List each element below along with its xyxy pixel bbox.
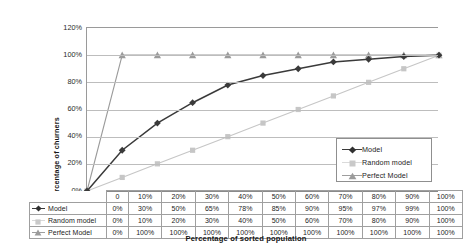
series-name: Random model (48, 216, 96, 226)
table-cell: 40% (229, 215, 262, 227)
series-marker-icon (32, 204, 45, 213)
x-axis-title: Percentage of sorted population (29, 234, 463, 243)
y-axis-tick-label: 60% (42, 104, 82, 113)
table-header-cell: 40% (229, 191, 262, 203)
table-header-cell: 50% (262, 191, 295, 203)
table-header-cell: 0 (107, 191, 129, 203)
y-axis-tick-label: 80% (42, 77, 82, 86)
gridline (87, 110, 438, 111)
diamond-data-point (330, 59, 337, 66)
y-axis-tick-label: 100% (42, 50, 82, 59)
table-header-cell: 90% (396, 191, 429, 203)
legend-label-perfect-model: Perfect Model (362, 171, 408, 180)
square-data-point (331, 93, 336, 98)
series-marker-icon (32, 216, 45, 225)
diamond-data-point (260, 72, 267, 79)
square-data-point (401, 66, 406, 71)
series-name: Model (48, 204, 67, 214)
diamond-data-point (189, 99, 196, 106)
table-cell: 78% (229, 203, 262, 215)
table-cell: 30% (128, 203, 161, 215)
table-header-cell: 10% (128, 191, 161, 203)
legend-label-random-model: Random model (362, 158, 412, 167)
table-cell: 85% (262, 203, 295, 215)
table-cell: 10% (128, 215, 161, 227)
table-cell: 65% (195, 203, 228, 215)
table-cell: 97% (362, 203, 395, 215)
gridline (87, 82, 438, 83)
table-cell: 50% (162, 203, 195, 215)
table-header-cell: 70% (329, 191, 362, 203)
table-cell: 99% (396, 203, 429, 215)
table-header-cell: 60% (295, 191, 328, 203)
y-axis-tick-label: 40% (42, 131, 82, 140)
table-cell: 90% (295, 203, 328, 215)
table-cell: 0% (107, 203, 129, 215)
table-cell: 20% (162, 215, 195, 227)
legend-item-model: Model (342, 143, 426, 156)
table-cell: 90% (396, 215, 429, 227)
triangle-marker-icon (342, 170, 362, 181)
legend-item-perfect-model: Perfect Model (342, 169, 426, 182)
table-cell: 30% (195, 215, 228, 227)
diamond-marker-icon (342, 144, 362, 155)
table-cell: 60% (295, 215, 328, 227)
y-axis-tick-label: 20% (42, 158, 82, 167)
data-table: 010%20%30%40%50%60%70%80%90%100%Model0%3… (29, 190, 463, 239)
square-data-point (120, 175, 125, 180)
table-cell: 0% (107, 215, 129, 227)
table-header-row: 010%20%30%40%50%60%70%80%90%100% (30, 191, 463, 203)
square-data-point (190, 148, 195, 153)
table-header-cell: 30% (195, 191, 228, 203)
table-cell: 95% (329, 203, 362, 215)
square-marker-icon (342, 157, 362, 168)
table-row: Model0%30%50%65%78%85%90%95%97%99%100% (30, 203, 463, 215)
table-header-cell: 20% (162, 191, 195, 203)
table-header-cell: 80% (362, 191, 395, 203)
table-cell: 100% (429, 215, 463, 227)
gridline (87, 55, 438, 56)
table-cell: 100% (429, 203, 463, 215)
y-axis-tick-label: 120% (42, 23, 82, 32)
table-corner-cell (30, 191, 107, 203)
table-cell: 80% (362, 215, 395, 227)
table-cell: 50% (262, 215, 295, 227)
diamond-data-point (400, 53, 407, 60)
legend-label-model: Model (362, 145, 382, 154)
chart-legend: Model Random model Perfect Model (336, 138, 432, 182)
table-header-cell: 100% (429, 191, 463, 203)
table-row-label: Random model (30, 215, 107, 227)
legend-item-random-model: Random model (342, 156, 426, 169)
table-row-label: Model (30, 203, 107, 215)
table-cell: 70% (329, 215, 362, 227)
table-row: Random model0%10%20%30%40%50%60%70%80%90… (30, 215, 463, 227)
diamond-data-point (295, 65, 302, 72)
square-data-point (260, 120, 265, 125)
chart-figure: Percentage of churners 0%20%40%60%80%100… (0, 0, 464, 252)
